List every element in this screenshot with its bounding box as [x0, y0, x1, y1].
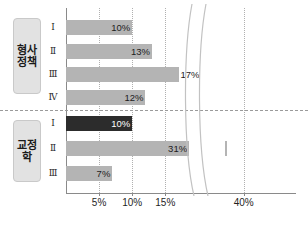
bar-chart: 형사정책 교정학 5%10%15%40% ⅠⅡⅢⅣⅠⅡⅢ 10%13%17%12…	[0, 0, 308, 225]
bar-continuation	[225, 141, 227, 156]
category-label: Ⅱ	[44, 143, 62, 153]
bar-value-label: 10%	[106, 23, 130, 33]
category-label: Ⅲ	[44, 168, 62, 178]
category-label: Ⅰ	[44, 22, 62, 32]
category-label: Ⅰ	[44, 118, 62, 128]
gridline-15	[165, 8, 166, 193]
x-tick-label: 15%	[145, 197, 185, 208]
group-label-criminal-policy: 형사정책	[13, 18, 41, 94]
group-label-criminal-policy-text: 형사정책	[14, 44, 40, 69]
x-tick-10	[132, 193, 133, 196]
group-label-corrections: 교정학	[13, 120, 41, 182]
gridline-40	[244, 8, 245, 193]
x-tick-5	[99, 193, 100, 196]
axis-break-icon	[178, 4, 222, 196]
x-tick-label: 40%	[224, 197, 264, 208]
bar	[66, 67, 179, 82]
x-tick-15	[165, 193, 166, 196]
category-label: Ⅲ	[44, 69, 62, 79]
group-separator	[0, 110, 308, 111]
group-label-corrections-text: 교정학	[14, 139, 40, 164]
bar-value-label: 13%	[126, 47, 150, 57]
category-label: Ⅱ	[44, 46, 62, 56]
bar-value-label: 12%	[119, 93, 143, 103]
bar-value-label: 7%	[86, 169, 110, 179]
bar-value-label: 10%	[106, 119, 130, 129]
category-label: Ⅳ	[44, 92, 62, 102]
x-tick-40	[244, 193, 245, 196]
